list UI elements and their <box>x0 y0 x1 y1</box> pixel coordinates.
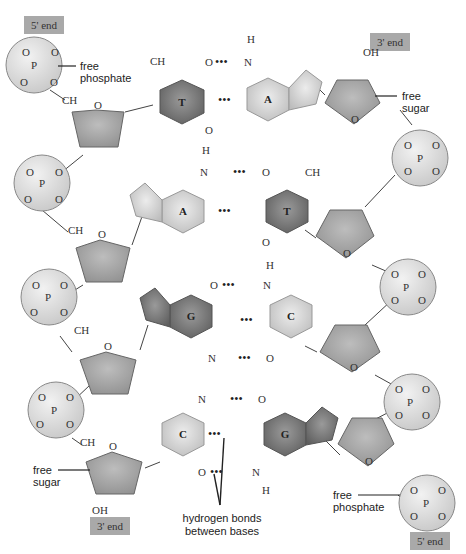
svg-text:O: O <box>438 484 446 496</box>
svg-text:O: O <box>24 193 32 205</box>
svg-text:O: O <box>391 268 399 280</box>
svg-text:O: O <box>38 391 46 403</box>
svg-text:O: O <box>365 455 373 467</box>
svg-text:N: N <box>200 166 208 178</box>
svg-text:•••: ••• <box>215 55 228 69</box>
svg-text:O: O <box>404 165 412 177</box>
svg-text:T: T <box>283 205 291 217</box>
phosphate-right-3: P O O O O <box>384 374 440 430</box>
svg-text:O: O <box>98 228 106 240</box>
svg-text:O: O <box>351 113 359 125</box>
svg-text:O: O <box>410 510 418 522</box>
svg-text:CH: CH <box>62 94 77 106</box>
svg-text:O: O <box>50 76 58 88</box>
svg-text:N: N <box>208 352 216 364</box>
svg-text:•••: ••• <box>208 427 221 441</box>
svg-text:O: O <box>60 279 68 291</box>
svg-text:O: O <box>422 383 430 395</box>
svg-text:H: H <box>266 259 274 271</box>
svg-text:O: O <box>30 306 38 318</box>
svg-text:G: G <box>281 428 290 440</box>
svg-text:O: O <box>55 166 63 178</box>
svg-text:O: O <box>60 306 68 318</box>
svg-text:•••: ••• <box>218 93 231 107</box>
svg-text:free: free <box>33 464 52 476</box>
svg-text:•••: ••• <box>222 278 235 292</box>
svg-text:phosphate: phosphate <box>333 501 384 513</box>
svg-text:•••: ••• <box>238 351 251 365</box>
svg-text:N: N <box>198 393 206 405</box>
svg-text:5' end: 5' end <box>31 19 58 31</box>
svg-text:H: H <box>202 144 210 156</box>
svg-text:O: O <box>66 391 74 403</box>
svg-text:O: O <box>266 352 274 364</box>
end-label-bottom-left-3prime: 3' end <box>90 517 130 535</box>
annotation-free-phosphate-bottom: free phosphate <box>333 489 400 513</box>
svg-text:A: A <box>264 93 272 105</box>
sugar-right-3: O <box>320 325 380 373</box>
svg-text:O: O <box>432 139 440 151</box>
svg-text:3' end: 3' end <box>377 36 404 48</box>
svg-text:O: O <box>262 236 270 248</box>
svg-text:C: C <box>287 310 295 322</box>
svg-text:•••: ••• <box>233 165 246 179</box>
svg-text:CH: CH <box>150 55 165 67</box>
svg-text:G: G <box>187 310 196 322</box>
svg-text:O: O <box>410 484 418 496</box>
svg-text:O: O <box>32 279 40 291</box>
svg-text:P: P <box>423 497 429 509</box>
svg-text:CH: CH <box>305 166 320 178</box>
svg-text:•••: ••• <box>240 313 253 327</box>
svg-text:O: O <box>205 56 213 68</box>
svg-text:P: P <box>39 177 45 189</box>
sugar-left-4: O CH OH <box>80 436 142 516</box>
svg-text:N: N <box>244 56 252 68</box>
svg-text:O: O <box>94 99 102 111</box>
svg-text:O: O <box>343 247 351 259</box>
annotation-free-sugar-bottom: free sugar <box>33 464 90 488</box>
svg-text:P: P <box>45 291 51 303</box>
annotation-free-sugar-top: free sugar <box>375 90 430 114</box>
svg-text:sugar: sugar <box>33 476 61 488</box>
svg-text:sugar: sugar <box>402 102 430 114</box>
svg-text:free: free <box>402 90 421 102</box>
svg-text:P: P <box>403 281 409 293</box>
phosphate-left-2: P O O O O <box>14 155 70 211</box>
svg-text:O: O <box>438 510 446 522</box>
svg-text:between bases: between bases <box>185 525 259 537</box>
svg-text:O: O <box>22 46 30 58</box>
phosphate-left-4: P O O O O <box>28 382 84 438</box>
annotation-hydrogen-bonds: hydrogen bonds between bases <box>183 438 262 537</box>
svg-text:phosphate: phosphate <box>80 72 131 84</box>
svg-text:O: O <box>262 166 270 178</box>
sugar-left-1: O CH <box>62 94 124 147</box>
phosphate-left-3: P O O O O <box>21 269 77 325</box>
svg-text:O: O <box>109 440 117 452</box>
svg-text:O: O <box>36 418 44 430</box>
sugar-left-3: O CH <box>74 324 136 394</box>
svg-text:O: O <box>55 193 63 205</box>
svg-text:CH: CH <box>74 324 89 336</box>
sugar-right-2: O <box>316 210 374 259</box>
svg-text:H: H <box>247 33 255 45</box>
svg-text:O: O <box>418 294 426 306</box>
svg-text:O: O <box>198 466 206 478</box>
base-pair-1-T-A: T CH O O A N H ••• ••• <box>150 33 322 136</box>
phosphate-right-2: P O O O O <box>380 259 436 315</box>
svg-text:O: O <box>20 76 28 88</box>
svg-text:O: O <box>432 165 440 177</box>
phosphate-left-1: P O O O O <box>6 37 62 93</box>
sugar-left-2: O CH <box>68 224 130 282</box>
svg-text:N: N <box>263 279 271 291</box>
svg-text:O: O <box>395 409 403 421</box>
end-label-bottom-right-5prime: 5' end <box>410 532 450 550</box>
phosphate-right-4: P O O O O <box>399 475 455 531</box>
svg-text:O: O <box>26 166 34 178</box>
sugar-right-1: O OH <box>325 46 380 125</box>
svg-text:free: free <box>333 489 352 501</box>
svg-text:O: O <box>418 268 426 280</box>
svg-text:CH: CH <box>80 436 95 448</box>
end-label-top-left-5prime: 5' end <box>24 16 64 34</box>
svg-text:H: H <box>262 484 270 496</box>
svg-text:O: O <box>422 409 430 421</box>
